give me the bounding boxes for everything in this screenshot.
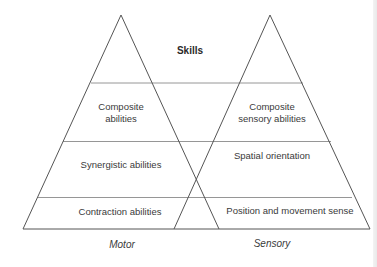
sensory-caption: Sensory xyxy=(254,238,291,250)
diagram-title: Skills xyxy=(177,45,203,57)
motor-level-composite-label: Composite abilities xyxy=(98,101,143,124)
sensory-level-composite-line1: Composite xyxy=(238,101,306,113)
pyramid-diagram xyxy=(0,0,377,267)
sensory-level-composite-label: Composite sensory abilities xyxy=(238,101,306,124)
motor-level-contraction-label: Contraction abilities xyxy=(79,206,162,218)
sensory-level-spatial-label: Spatial orientation xyxy=(234,150,310,162)
motor-caption: Motor xyxy=(109,239,135,251)
motor-level-composite-line2: abilities xyxy=(98,113,143,125)
scan-edge-shadow xyxy=(373,0,377,267)
motor-level-composite-line1: Composite xyxy=(98,101,143,113)
motor-level-synergistic-label: Synergistic abilities xyxy=(81,159,162,171)
sensory-level-composite-line2: sensory abilities xyxy=(238,113,306,125)
sensory-level-position-label: Position and movement sense xyxy=(226,205,353,217)
